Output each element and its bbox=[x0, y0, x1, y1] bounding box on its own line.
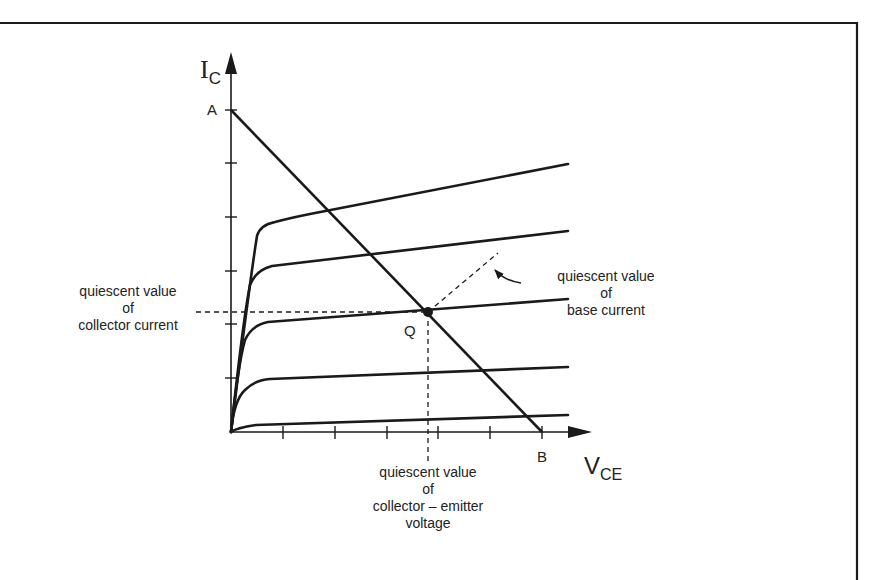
q-point bbox=[423, 307, 433, 317]
y-axis-label-main: I bbox=[200, 55, 209, 84]
annotation-line: voltage bbox=[358, 515, 498, 532]
x-axis-label-sub: CE bbox=[600, 466, 622, 483]
curve-ib-2 bbox=[231, 367, 568, 432]
y-axis-label-sub: C bbox=[209, 69, 221, 88]
annotation-line: of bbox=[358, 481, 498, 498]
annotation-line: collector current bbox=[58, 317, 198, 334]
x-axis-label: VCE bbox=[584, 452, 622, 483]
y-axis-label: IC bbox=[200, 56, 221, 87]
curve-ib-5 bbox=[231, 164, 568, 432]
annotation-line: quiescent value bbox=[58, 283, 198, 300]
pointer-arrow-icon bbox=[495, 270, 521, 283]
point-a-label: A bbox=[207, 101, 217, 118]
annotation-line: base current bbox=[536, 302, 676, 319]
curve-ib-1 bbox=[231, 415, 568, 432]
x-axis-arrow-icon bbox=[568, 426, 592, 438]
annotation-line: collector – emitter bbox=[358, 498, 498, 515]
annotation-collector-emitter-voltage: quiescent value of collector – emitter v… bbox=[358, 464, 498, 532]
point-q-label: Q bbox=[404, 322, 416, 339]
curve-ib-4 bbox=[231, 231, 568, 432]
annotation-line: quiescent value bbox=[358, 464, 498, 481]
annotation-line: of bbox=[536, 285, 676, 302]
annotation-line: of bbox=[58, 300, 198, 317]
characteristic-curves bbox=[231, 164, 568, 432]
x-axis-label-main: V bbox=[584, 452, 600, 479]
y-axis-arrow-icon bbox=[225, 52, 237, 74]
point-b-label: B bbox=[537, 448, 547, 465]
y-axis bbox=[225, 52, 237, 432]
annotation-base-current: quiescent value of base current bbox=[536, 268, 676, 319]
curve-ib-3 bbox=[231, 299, 568, 432]
annotation-collector-current: quiescent value of collector current bbox=[58, 283, 198, 334]
annotation-line: quiescent value bbox=[536, 268, 676, 285]
base-current-guide bbox=[428, 253, 498, 312]
